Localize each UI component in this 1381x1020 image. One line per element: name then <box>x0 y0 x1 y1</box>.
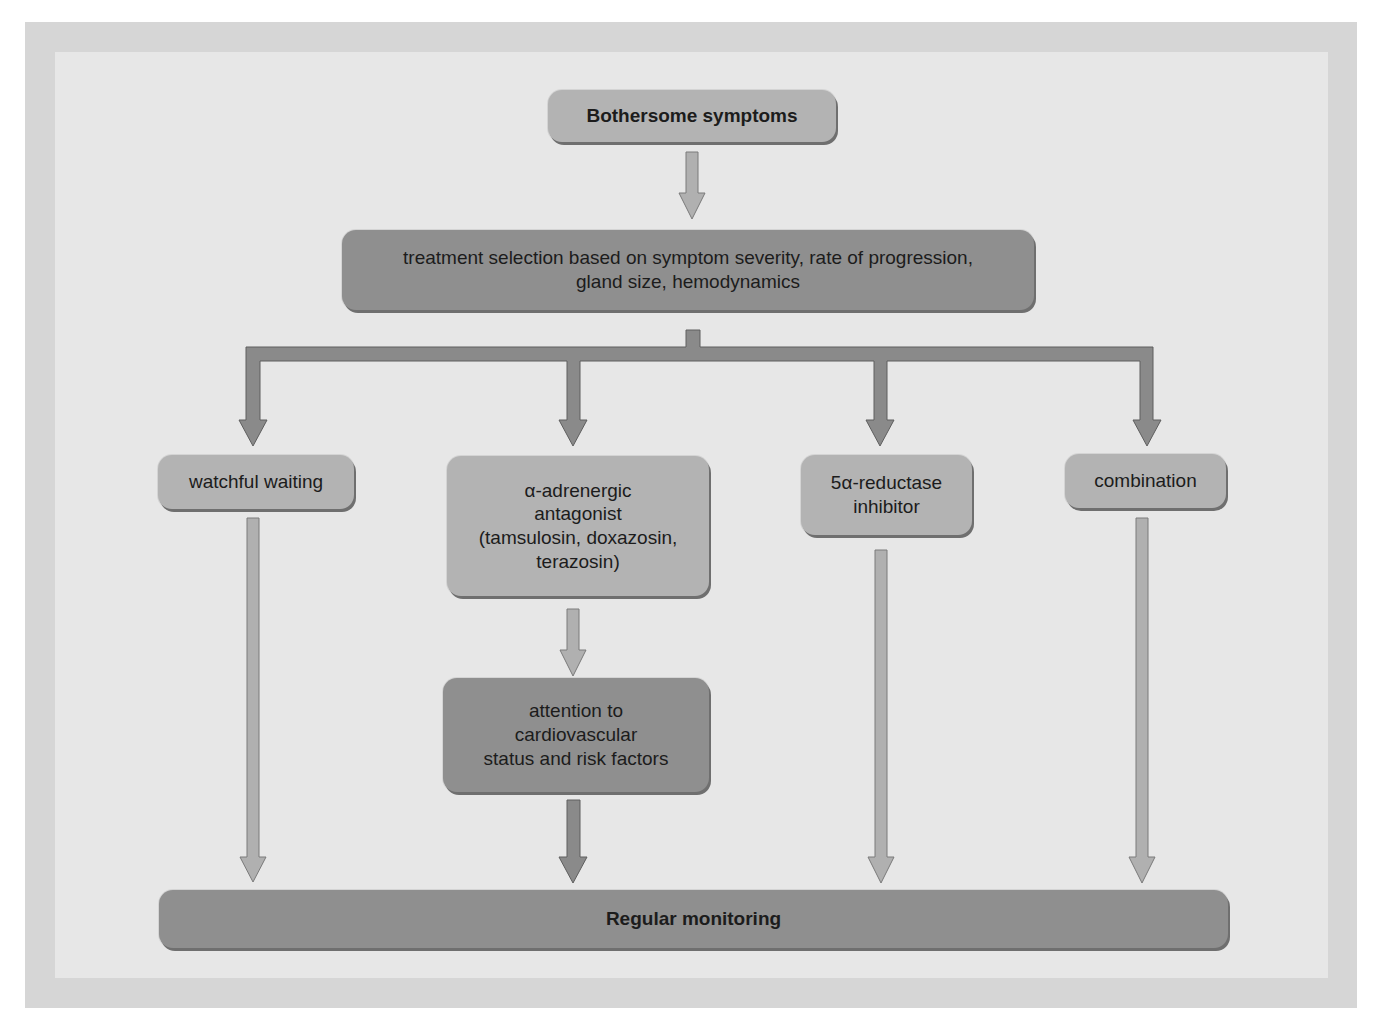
node-5alpha-reductase-inhibitor: 5α-reductase inhibitor <box>801 455 972 535</box>
node-label: watchful waiting <box>189 470 323 494</box>
arrow-cardio-to-monitoring <box>559 800 587 883</box>
node-combination: combination <box>1065 454 1226 508</box>
arrow-alpha-to-cardio <box>560 609 586 676</box>
node-bothersome-symptoms: Bothersome symptoms <box>548 90 836 142</box>
node-treatment-selection: treatment selection based on symptom sev… <box>342 230 1034 310</box>
node-label: attention to cardiovascular status and r… <box>484 699 669 770</box>
arrow-start-to-selection <box>679 152 705 219</box>
arrow-combination-to-monitoring <box>1129 518 1155 883</box>
node-label: 5α-reductase inhibitor <box>831 471 942 519</box>
branch-connector <box>239 330 1161 446</box>
node-label: α-adrenergic antagonist (tamsulosin, dox… <box>479 479 678 574</box>
node-label: Regular monitoring <box>606 907 781 931</box>
node-regular-monitoring: Regular monitoring <box>159 890 1228 948</box>
node-alpha-adrenergic-antagonist: α-adrenergic antagonist (tamsulosin, dox… <box>447 456 709 596</box>
arrow-reductase-to-monitoring <box>868 550 894 883</box>
node-watchful-waiting: watchful waiting <box>158 455 354 509</box>
node-label: combination <box>1094 469 1196 493</box>
node-label: Bothersome symptoms <box>586 104 797 128</box>
node-cardiovascular-attention: attention to cardiovascular status and r… <box>443 678 709 792</box>
node-label: treatment selection based on symptom sev… <box>403 246 973 294</box>
arrow-watchful-to-monitoring <box>240 518 266 882</box>
